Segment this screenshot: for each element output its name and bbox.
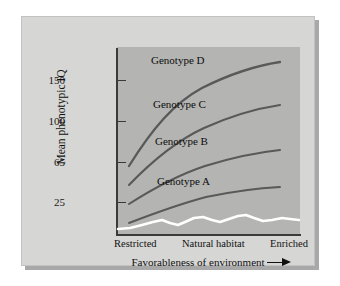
y-tick-65 bbox=[118, 162, 126, 163]
plot-area bbox=[117, 47, 300, 235]
y-tick-150 bbox=[118, 80, 126, 81]
x-axis-tick-labels: Restricted Natural habitat Enriched bbox=[114, 238, 308, 249]
arrow-head bbox=[282, 258, 291, 266]
y-tick-25 bbox=[118, 202, 126, 203]
y-tick-100 bbox=[118, 121, 126, 122]
series-label-genotype-a: Genotype A bbox=[157, 176, 210, 187]
series-label-genotype-b: Genotype B bbox=[155, 136, 208, 147]
y-axis-line bbox=[116, 48, 118, 236]
x-axis-title: Favorableness of environment bbox=[131, 256, 264, 268]
right-arrow-icon bbox=[267, 258, 293, 267]
x-axis-line bbox=[116, 234, 301, 236]
x-tick-label-natural-habitat: Natural habitat bbox=[182, 238, 245, 249]
x-tick-label-restricted: Restricted bbox=[114, 238, 157, 249]
x-axis-title-row: Favorableness of environment bbox=[114, 256, 310, 268]
x-tick-label-enriched: Enriched bbox=[270, 238, 308, 249]
y-tick-label-25: 25 bbox=[25, 197, 65, 208]
y-axis-title: Mean phenotypic IQ bbox=[55, 52, 67, 182]
series-label-genotype-c: Genotype C bbox=[153, 99, 206, 110]
figure-plate: 150 100 65 25 Mean phenotypic IQ Genotyp… bbox=[21, 16, 315, 266]
series-label-genotype-d: Genotype D bbox=[151, 55, 204, 66]
figure-root: 150 100 65 25 Mean phenotypic IQ Genotyp… bbox=[0, 0, 340, 286]
